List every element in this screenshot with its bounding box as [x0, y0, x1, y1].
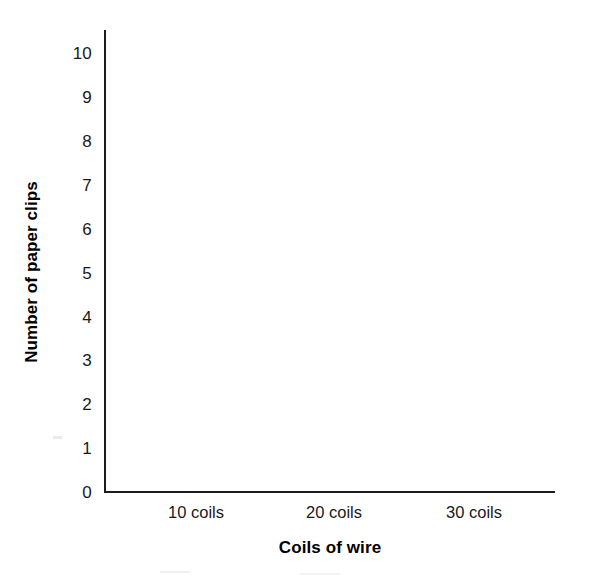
y-tick-label: 4: [0, 309, 92, 326]
y-axis-tick-labels: 10 9 8 7 6 5 4 3 2 1 0: [0, 0, 92, 581]
chart-container: 10 9 8 7 6 5 4 3 2 1 0 10 coils 20 coils…: [0, 0, 596, 581]
y-tick-label: 7: [0, 177, 92, 194]
x-tick-label: 20 coils: [306, 503, 362, 522]
x-axis-line: [104, 491, 555, 493]
x-axis-title: Coils of wire: [279, 538, 381, 558]
scan-artifact-speck: [300, 573, 340, 575]
y-tick-label: 1: [0, 440, 92, 457]
y-tick-label: 8: [0, 133, 92, 150]
y-tick-label: 3: [0, 352, 92, 369]
y-axis-title: Number of paper clips: [22, 181, 42, 363]
x-tick-label: 10 coils: [168, 503, 224, 522]
y-tick-label: 2: [0, 396, 92, 413]
x-tick-label: 30 coils: [446, 503, 502, 522]
y-tick-label: 9: [0, 89, 92, 106]
y-tick-label: 0: [0, 484, 92, 501]
scan-artifact-speck: [160, 571, 190, 573]
x-axis-tick-labels: 10 coils 20 coils 30 coils: [0, 503, 596, 527]
y-axis-line: [104, 30, 106, 493]
scan-artifact-speck: [53, 436, 62, 439]
y-tick-label: 5: [0, 265, 92, 282]
plot-area: [106, 30, 555, 491]
y-tick-label: 6: [0, 221, 92, 238]
y-tick-label: 10: [0, 45, 92, 62]
